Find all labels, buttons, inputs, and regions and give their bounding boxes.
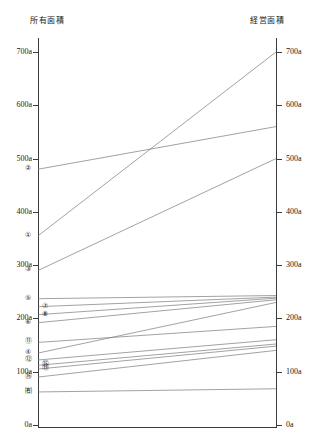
tick-mark-right-500a <box>277 159 282 160</box>
tick-mark-right-100a <box>277 372 282 373</box>
series-line-⑬ <box>38 346 276 369</box>
tick-mark-left-0a <box>33 425 38 426</box>
tick-mark-right-0a <box>277 425 282 426</box>
series-label-⑫: ⑫ <box>25 356 32 363</box>
series-line-⑮ <box>38 344 276 365</box>
tick-mark-left-500a <box>33 159 38 160</box>
series-label-⑤: ⑤ <box>25 295 31 302</box>
tick-label-right-600a: 600a <box>286 100 302 109</box>
series-label-⑧: ⑧ <box>42 311 48 318</box>
series-line-⑦ <box>38 297 276 307</box>
tick-label-right-0a: 0a <box>286 420 294 429</box>
series-line-⑤ <box>38 296 276 299</box>
series-line-⑯ <box>38 350 276 377</box>
right-axis-line <box>276 38 277 428</box>
series-line-⑧ <box>38 298 276 315</box>
tick-label-left-700a: 700a <box>16 47 32 56</box>
series-line-④ <box>38 302 276 353</box>
tick-mark-left-700a <box>33 52 38 53</box>
series-line-⑫ <box>38 340 276 360</box>
tick-label-right-700a: 700a <box>286 47 302 56</box>
series-line-㉓ <box>38 389 276 392</box>
series-label-③: ③ <box>25 266 31 273</box>
tick-label-left-0a: 0a <box>24 420 32 429</box>
tick-label-left-500a: 500a <box>16 154 32 163</box>
tick-mark-left-300a <box>33 265 38 266</box>
tick-mark-right-300a <box>277 265 282 266</box>
baseline-connector <box>38 427 277 428</box>
series-line-① <box>38 52 276 236</box>
series-label-㈲: ㈲ <box>25 388 32 395</box>
tick-label-right-400a: 400a <box>286 207 302 216</box>
series-line-⑪ <box>38 326 276 342</box>
tick-mark-left-600a <box>33 105 38 106</box>
tick-label-right-200a: 200a <box>286 313 302 322</box>
series-label-⑪: ⑪ <box>25 338 32 345</box>
series-label-⑦: ⑦ <box>42 303 48 310</box>
tick-label-right-100a: 100a <box>286 367 302 376</box>
tick-mark-left-400a <box>33 212 38 213</box>
tick-label-left-400a: 400a <box>16 207 32 216</box>
tick-mark-right-700a <box>277 52 282 53</box>
tick-mark-right-200a <box>277 318 282 319</box>
slope-chart: 所有面積 経営面積 700a600a500a400a300a200a100a0a… <box>0 0 314 439</box>
tick-mark-right-600a <box>277 105 282 106</box>
left-axis-line <box>38 38 39 428</box>
tick-label-left-600a: 600a <box>16 100 32 109</box>
left-axis-title: 所有面積 <box>30 14 64 25</box>
series-label-②: ② <box>25 165 31 172</box>
series-label-⑯: ⑯ <box>25 373 32 380</box>
tick-label-right-300a: 300a <box>286 260 302 269</box>
series-line-③ <box>38 159 276 271</box>
right-axis-title: 経営面積 <box>250 14 284 25</box>
series-label-⑬: ⑬ <box>42 365 49 372</box>
tick-label-right-500a: 500a <box>286 154 302 163</box>
series-line-② <box>38 127 276 170</box>
series-label-①: ① <box>25 232 31 239</box>
tick-mark-left-100a <box>33 372 38 373</box>
tick-mark-right-400a <box>277 212 282 213</box>
tick-mark-left-200a <box>33 318 38 319</box>
series-line-⑥ <box>38 300 276 323</box>
series-lines <box>0 0 314 439</box>
series-label-⑥: ⑥ <box>25 319 31 326</box>
